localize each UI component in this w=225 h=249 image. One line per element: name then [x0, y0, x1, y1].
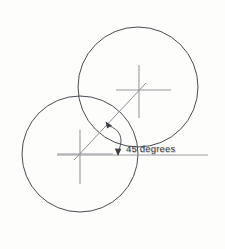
upper-circle-center-mark: [116, 65, 171, 118]
technical-drawing-canvas: 45 degrees 45 degrees: [0, 0, 225, 249]
drawing-svg: 45 degrees 45 degrees: [0, 0, 225, 249]
angle-dimension-arc: [109, 126, 122, 151]
upper-right-circle: [78, 27, 198, 147]
angle-label-scan-ghost: 45 degrees: [127, 144, 177, 155]
lower-circle-center-mark: [57, 130, 113, 184]
